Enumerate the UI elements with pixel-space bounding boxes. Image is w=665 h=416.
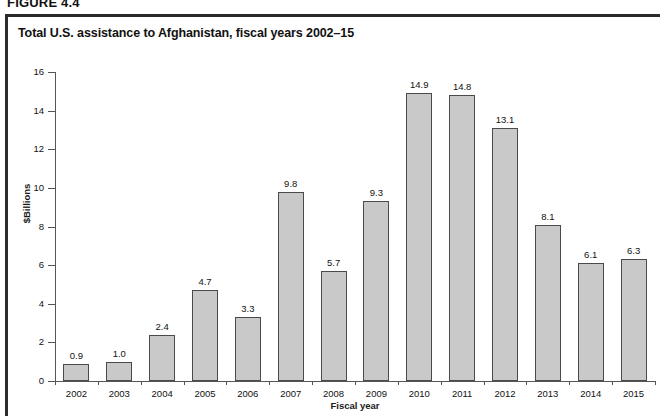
bar xyxy=(621,259,647,381)
x-axis-tick-label: 2012 xyxy=(485,389,525,399)
y-axis-tick-label: 14 xyxy=(22,106,44,116)
x-axis-tick xyxy=(569,381,570,385)
x-axis-tick-label: 2007 xyxy=(271,389,311,399)
x-axis-tick xyxy=(98,381,99,385)
y-axis-tick-label: 6 xyxy=(22,260,44,270)
bar xyxy=(363,201,389,381)
y-axis-tick-label: 2 xyxy=(22,337,44,347)
y-axis-tick xyxy=(48,304,55,305)
bar-value-label: 14.9 xyxy=(399,80,439,90)
x-axis-tick-label: 2011 xyxy=(442,389,482,399)
y-axis-tick-label: 16 xyxy=(22,67,44,77)
y-axis-tick xyxy=(48,72,55,73)
y-axis-tick xyxy=(48,188,55,189)
y-axis-tick xyxy=(48,342,55,343)
x-axis-tick xyxy=(655,381,656,385)
x-axis-tick xyxy=(526,381,527,385)
bar xyxy=(535,225,561,381)
y-axis-tick xyxy=(48,381,55,382)
y-axis-tick-label: 8 xyxy=(22,222,44,232)
bar xyxy=(278,192,304,381)
x-axis-tick xyxy=(484,381,485,385)
bar-value-label: 14.8 xyxy=(442,82,482,92)
x-axis-tick-label: 2008 xyxy=(314,389,354,399)
bar-value-label: 9.3 xyxy=(356,188,396,198)
bar-chart: $Billions 0246810121416 0.91.02.44.73.39… xyxy=(0,0,665,416)
x-axis-tick xyxy=(612,381,613,385)
x-axis-tick xyxy=(55,381,56,385)
y-axis-tick xyxy=(48,227,55,228)
bar xyxy=(63,364,89,381)
y-axis-tick-label: 4 xyxy=(22,299,44,309)
bars-layer: 0.91.02.44.73.39.85.79.314.914.813.18.16… xyxy=(55,72,655,381)
x-axis-tick xyxy=(398,381,399,385)
y-axis-tick xyxy=(48,149,55,150)
bar-value-label: 2.4 xyxy=(142,322,182,332)
bar xyxy=(449,95,475,381)
bar-value-label: 5.7 xyxy=(314,258,354,268)
y-axis-tick-label: 10 xyxy=(22,183,44,193)
bar xyxy=(578,263,604,381)
bar xyxy=(149,335,175,381)
bar xyxy=(406,93,432,381)
x-axis-tick-label: 2002 xyxy=(56,389,96,399)
bar-value-label: 4.7 xyxy=(185,277,225,287)
y-axis-tick-label: 0 xyxy=(22,376,44,386)
bar xyxy=(106,362,132,381)
bar-value-label: 8.1 xyxy=(528,212,568,222)
bar-value-label: 0.9 xyxy=(56,351,96,361)
bar xyxy=(492,128,518,381)
x-axis-tick-label: 2004 xyxy=(142,389,182,399)
y-axis-tick xyxy=(48,111,55,112)
bar-value-label: 9.8 xyxy=(271,179,311,189)
x-axis-tick xyxy=(184,381,185,385)
x-axis-title: Fiscal year xyxy=(55,400,655,411)
bar xyxy=(321,271,347,381)
x-axis-tick-label: 2003 xyxy=(99,389,139,399)
x-axis-tick-label: 2014 xyxy=(571,389,611,399)
x-axis-tick-label: 2006 xyxy=(228,389,268,399)
x-axis-tick xyxy=(141,381,142,385)
x-axis-tick xyxy=(355,381,356,385)
x-axis-tick-label: 2005 xyxy=(185,389,225,399)
x-axis-tick-label: 2009 xyxy=(356,389,396,399)
x-axis-tick-label: 2015 xyxy=(614,389,654,399)
x-axis-tick-label: 2010 xyxy=(399,389,439,399)
y-axis-title: $Billions xyxy=(21,164,32,244)
x-axis-tick-label: 2013 xyxy=(528,389,568,399)
x-axis-tick xyxy=(226,381,227,385)
bar-value-label: 6.3 xyxy=(614,246,654,256)
bar xyxy=(235,317,261,381)
x-axis-tick xyxy=(312,381,313,385)
y-axis-tick xyxy=(48,265,55,266)
bar-value-label: 13.1 xyxy=(485,115,525,125)
bar-value-label: 1.0 xyxy=(99,349,139,359)
bar xyxy=(192,290,218,381)
y-axis-tick-label: 12 xyxy=(22,144,44,154)
x-axis-tick xyxy=(441,381,442,385)
bar-value-label: 6.1 xyxy=(571,250,611,260)
bar-value-label: 3.3 xyxy=(228,304,268,314)
x-axis-tick xyxy=(269,381,270,385)
